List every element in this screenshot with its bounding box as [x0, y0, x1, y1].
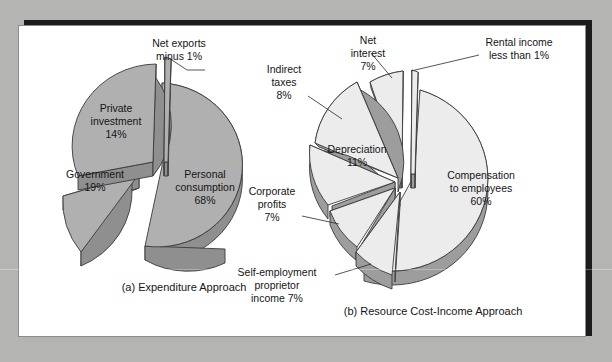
label-self-employment: Self-employment proprietor income 7% [238, 266, 317, 304]
label-indirect-taxes-line1: Indirect [267, 63, 302, 75]
label-rental-income-line1: Rental income [485, 36, 552, 48]
label-indirect-taxes-line2: taxes [271, 76, 296, 88]
label-net-interest: Net interest 7% [351, 34, 386, 72]
label-government-line2: 19% [84, 181, 105, 193]
label-personal-consumption-line1: Personal [184, 168, 225, 180]
label-net-interest-line2: interest [351, 47, 386, 59]
label-rental-income-line2: less than 1% [489, 49, 549, 61]
label-indirect-taxes: Indirect taxes 8% [267, 63, 302, 101]
pie-charts-svg: Net exports minus 1% Private investment … [19, 26, 585, 336]
label-private-investment-line3: 14% [105, 128, 126, 140]
label-self-employment-line3: income 7% [251, 292, 303, 304]
label-personal-consumption-line3: 68% [194, 194, 215, 206]
figure-panel: Net exports minus 1% Private investment … [18, 25, 586, 337]
label-private-investment-line2: investment [91, 115, 142, 127]
leader-rental-income [411, 55, 479, 71]
caption-resource-cost-income-approach: (b) Resource Cost-Income Approach [344, 305, 523, 317]
figure-screenshot: Net exports minus 1% Private investment … [0, 0, 612, 362]
label-corporate-profits-line3: 7% [264, 211, 279, 223]
chart-expenditure-approach: Net exports minus 1% Private investment … [63, 37, 247, 293]
label-self-employment-line2: proprietor [255, 279, 300, 291]
label-self-employment-line1: Self-employment [238, 266, 317, 278]
chart-resource-cost-income-approach: Net interest 7% Rental income less than … [238, 34, 553, 317]
label-corporate-profits-line2: profits [258, 198, 287, 210]
label-net-interest-line1: Net [360, 34, 376, 46]
label-compensation-line2: to employees [450, 182, 512, 194]
label-depreciation-line1: Depreciation [328, 143, 387, 155]
label-net-interest-line3: 7% [360, 60, 375, 72]
label-government-line1: Government [66, 168, 124, 180]
label-private-investment-line1: Private [100, 102, 133, 114]
label-corporate-profits: Corporate profits 7% [249, 185, 296, 223]
label-compensation-line1: Compensation [447, 169, 515, 181]
label-net-exports-line1: Net exports [152, 37, 206, 49]
label-depreciation-line2: 11% [347, 156, 367, 168]
label-personal-consumption-line2: consumption [175, 181, 235, 193]
caption-expenditure-approach: (a) Expenditure Approach [122, 281, 247, 293]
label-compensation-line3: 60% [470, 195, 491, 207]
label-corporate-profits-line1: Corporate [249, 185, 296, 197]
label-net-exports: Net exports minus 1% [152, 37, 206, 62]
label-net-exports-line2: minus 1% [156, 50, 202, 62]
label-indirect-taxes-line3: 8% [276, 89, 291, 101]
label-rental-income: Rental income less than 1% [485, 36, 552, 61]
